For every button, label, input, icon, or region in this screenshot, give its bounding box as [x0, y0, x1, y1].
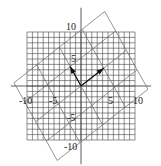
- lattice-diagram: -10 -5 5 10 10 5 -5 -10: [0, 0, 161, 166]
- x-tick-label-pos5: 5: [108, 95, 113, 106]
- x-tick-label-neg10: -10: [19, 95, 32, 106]
- y-tick-label-pos10: 10: [66, 21, 76, 32]
- y-tick-label-neg5: -5: [67, 112, 75, 123]
- x-tick-label-neg5: -5: [49, 95, 57, 106]
- basis-vectors: [70, 67, 103, 86]
- y-tick-label-pos5: 5: [71, 53, 76, 64]
- arrowhead-icon: [70, 67, 76, 74]
- x-tick-label-pos10: 10: [133, 95, 143, 106]
- y-tick-label-neg10: -10: [64, 141, 77, 152]
